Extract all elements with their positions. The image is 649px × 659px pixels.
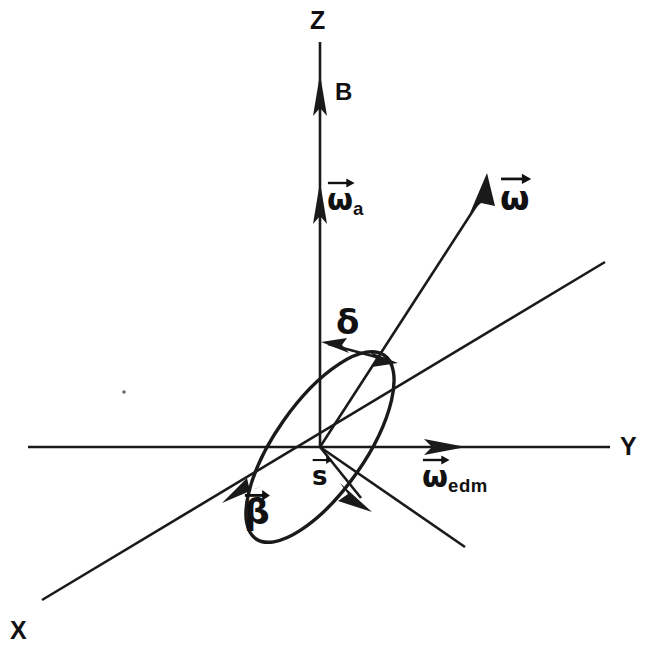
figure-root: Z Y X B ωa ω [0,0,649,659]
omega-total-arrowhead [470,173,495,213]
omega-edm-label: ωedm [422,462,488,496]
omega-a-subscript: a [353,198,364,219]
omega-edm-subscript: edm [448,475,488,496]
x-axis-line [42,262,605,600]
diagram-canvas [0,0,649,659]
beta-glyph: β [244,494,270,530]
omega-edm-glyph: ω [422,462,448,492]
spin-glyph: s [312,463,327,489]
delta-angle-label: δ [336,305,359,339]
scan-speck [122,390,126,394]
b-field-label: B [335,80,352,104]
y-axis-label: Y [620,434,637,459]
x-axis-label: X [10,618,27,643]
spin-arrowhead [338,483,372,512]
omega-a-glyph: ω [327,185,353,215]
spin-label: s [312,463,327,489]
z-axis-label: Z [310,8,325,33]
omega-total-label: ω [500,181,530,219]
omega-total-glyph: ω [500,181,530,215]
beta-label: β [244,494,270,530]
omega-a-label: ωa [327,185,364,219]
